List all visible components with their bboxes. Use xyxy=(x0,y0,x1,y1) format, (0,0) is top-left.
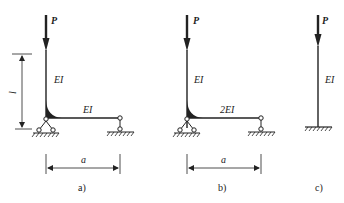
load-arrow-p xyxy=(315,15,322,47)
load-arrow-p xyxy=(184,15,191,51)
panel-b: P EI 2EI a b) xyxy=(173,15,275,194)
span-label: a xyxy=(81,154,86,165)
column-stiffness-label: EI xyxy=(193,74,204,85)
beam-stiffness-label: 2EI xyxy=(220,104,235,115)
panel-caption: a) xyxy=(78,182,86,194)
column-stiffness-label: EI xyxy=(324,74,335,85)
fixed-support xyxy=(305,127,332,131)
pin-support xyxy=(32,117,59,137)
load-arrow-p xyxy=(43,15,50,51)
rigid-joint xyxy=(187,100,203,118)
span-label: a xyxy=(221,154,226,165)
panel-a: P EI EI xyxy=(7,15,134,194)
rigid-joint xyxy=(46,100,62,118)
load-label: P xyxy=(322,15,329,26)
beam-stiffness-label: EI xyxy=(82,104,93,115)
column-stiffness-label: EI xyxy=(53,74,64,85)
structural-frames-diagram: P EI EI xyxy=(0,0,344,203)
height-label: l xyxy=(7,91,18,94)
panel-caption: b) xyxy=(218,182,226,194)
panel-c: P EI c) xyxy=(305,15,335,194)
load-label: P xyxy=(51,15,58,26)
link-support xyxy=(248,116,275,136)
panel-caption: c) xyxy=(315,182,323,194)
link-support xyxy=(107,116,134,136)
load-label: P xyxy=(193,15,200,26)
